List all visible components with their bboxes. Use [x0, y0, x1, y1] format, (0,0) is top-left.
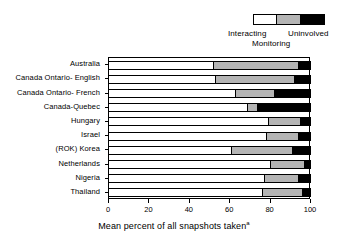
stacked-bar: [109, 103, 311, 112]
bar-segment-uninvolved: [303, 189, 311, 196]
bar-row: [109, 188, 309, 197]
bar-segment-interacting: [109, 161, 271, 168]
bar-row: [109, 160, 309, 169]
bar-segment-monitoring: [232, 147, 293, 154]
bar-segment-interacting: [109, 62, 214, 69]
x-axis-ticks: [108, 199, 310, 204]
bar-segment-monitoring: [271, 161, 305, 168]
y-axis-label: Hungary: [71, 116, 100, 125]
x-axis-tick-label: 100: [304, 205, 317, 214]
bar-segment-interacting: [109, 175, 265, 182]
bar-segment-monitoring: [236, 90, 274, 97]
stacked-bar: [109, 117, 311, 126]
bar-row: [109, 103, 309, 112]
x-axis-tick: [148, 199, 149, 203]
bar-row: [109, 146, 309, 155]
x-axis-tick-labels: 020406080100: [0, 205, 348, 217]
x-axis-tick: [270, 199, 271, 203]
x-axis-tick: [108, 199, 109, 203]
y-axis-label: Canada Ontario- English: [16, 73, 100, 82]
x-axis-tick-label: 20: [144, 205, 152, 214]
x-axis-tick-label: 0: [106, 205, 110, 214]
chart-plot-area: [108, 57, 310, 199]
bar-segment-monitoring: [248, 104, 258, 111]
bar-segment-monitoring: [269, 118, 301, 125]
bar-segment-interacting: [109, 133, 267, 140]
y-axis-label: Thailand: [70, 187, 100, 196]
stacked-bar: [109, 188, 311, 197]
bar-segment-uninvolved: [299, 175, 311, 182]
x-axis-tick: [310, 199, 311, 203]
bar-row: [109, 75, 309, 84]
bar-segment-interacting: [109, 104, 248, 111]
x-axis-tick: [189, 199, 190, 203]
bar-segment-interacting: [109, 189, 263, 196]
bar-segment-monitoring: [216, 76, 295, 83]
legend-swatch-monitoring: [277, 15, 300, 24]
x-axis-title-footnote-marker: a: [246, 220, 249, 226]
y-axis-label: Israel: [81, 130, 100, 139]
bar-row: [109, 174, 309, 183]
stacked-bar: [109, 89, 311, 98]
legend-swatch-interacting: [254, 15, 277, 24]
x-axis-tick-label: 60: [225, 205, 233, 214]
y-axis-label: (ROK) Korea: [56, 144, 100, 153]
x-axis-tick: [229, 199, 230, 203]
bar-row: [109, 89, 309, 98]
bar-row: [109, 61, 309, 70]
stacked-bar: [109, 132, 311, 141]
bar-segment-monitoring: [265, 175, 299, 182]
stacked-bar: [109, 61, 311, 70]
y-axis-label: Netherlands: [58, 159, 100, 168]
bar-segment-interacting: [109, 147, 232, 154]
bar-segment-interacting: [109, 90, 236, 97]
y-axis-labels: AustraliaCanada Ontario- EnglishCanada O…: [0, 57, 105, 199]
legend-swatch-group: [253, 14, 325, 25]
y-axis-label: Nigeria: [76, 173, 100, 182]
y-axis-label: Canada-Quebec: [44, 102, 100, 111]
x-axis-title: Mean percent of all snapshots takena: [0, 221, 348, 231]
stacked-bar-group: [109, 58, 309, 198]
y-axis-label: Australia: [70, 59, 100, 68]
bar-segment-uninvolved: [301, 118, 311, 125]
bar-segment-uninvolved: [295, 76, 311, 83]
chart-legend: Interacting Uninvolved Monitoring: [0, 6, 348, 48]
stacked-bar: [109, 160, 311, 169]
bar-segment-monitoring: [267, 133, 299, 140]
legend-label-interacting: Interacting: [228, 29, 266, 38]
stacked-bar: [109, 146, 311, 155]
x-axis-tick-label: 40: [185, 205, 193, 214]
bar-segment-interacting: [109, 118, 269, 125]
bar-segment-uninvolved: [299, 62, 311, 69]
y-axis-label: Canada Ontario- French: [17, 88, 100, 97]
bar-row: [109, 117, 309, 126]
bar-row: [109, 132, 309, 141]
bar-segment-monitoring: [263, 189, 303, 196]
bar-segment-uninvolved: [275, 90, 311, 97]
x-axis-tick-label: 80: [265, 205, 273, 214]
legend-label-monitoring: Monitoring: [252, 39, 290, 48]
legend-swatch-uninvolved: [301, 15, 324, 24]
bar-segment-uninvolved: [258, 104, 311, 111]
bar-segment-interacting: [109, 76, 216, 83]
stacked-bar: [109, 174, 311, 183]
bar-segment-uninvolved: [305, 161, 311, 168]
bar-segment-uninvolved: [293, 147, 311, 154]
bar-segment-monitoring: [214, 62, 299, 69]
legend-label-uninvolved: Uninvolved: [288, 29, 329, 38]
stacked-bar: [109, 75, 311, 84]
bar-segment-uninvolved: [299, 133, 311, 140]
